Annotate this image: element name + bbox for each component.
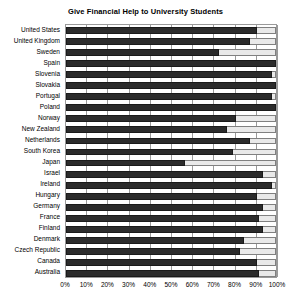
y-axis-label: Japan [0, 158, 62, 166]
y-axis-label: Netherlands [0, 136, 62, 144]
y-axis-label: France [0, 213, 62, 221]
bar-row[interactable] [66, 248, 276, 255]
gridline [277, 25, 278, 277]
bar-fill [66, 60, 276, 67]
x-axis-tick-label: 80% [228, 280, 241, 289]
bar-fill [66, 115, 236, 122]
y-axis-label: Poland [0, 103, 62, 111]
y-axis-label: Slovakia [0, 81, 62, 89]
x-axis-tick-label: 60% [186, 280, 199, 289]
y-axis-label: Australia [0, 268, 62, 276]
bar-row[interactable] [66, 171, 276, 178]
y-axis-label: Portugal [0, 92, 62, 100]
bar-fill [66, 93, 272, 100]
bar-row[interactable] [66, 104, 276, 111]
bar-row[interactable] [66, 160, 276, 167]
x-axis-tick-labels: 0%10%20%30%40%50%60%70%80%90%100% [0, 280, 291, 292]
bar-fill [66, 138, 250, 145]
bar-row[interactable] [66, 27, 276, 34]
y-axis-label: Slovenia [0, 70, 62, 78]
bar-fill [66, 149, 233, 156]
bar-row[interactable] [66, 182, 276, 189]
bar-fill [66, 82, 276, 89]
bar-fill [66, 226, 263, 233]
bar-row[interactable] [66, 193, 276, 200]
bar-fill [66, 49, 219, 56]
bar-row[interactable] [66, 226, 276, 233]
bar-fill [66, 27, 257, 34]
bar-fill [66, 160, 185, 167]
bar-row[interactable] [66, 60, 276, 67]
bar-row[interactable] [66, 82, 276, 89]
bar-fill [66, 259, 257, 266]
plot-area [65, 24, 277, 278]
x-axis-tick-label: 50% [164, 280, 177, 289]
bar-fill [66, 104, 276, 111]
bar-row[interactable] [66, 270, 276, 277]
y-axis-label: Finland [0, 224, 62, 232]
chart-title: Give Financial Help to University Studen… [0, 7, 291, 17]
bar-fill [66, 38, 250, 45]
bar-fill [66, 171, 263, 178]
bar-fill [66, 204, 263, 211]
bar-fill [66, 193, 257, 200]
y-axis-label: Israel [0, 169, 62, 177]
y-axis-label: Ireland [0, 180, 62, 188]
bar-row[interactable] [66, 149, 276, 156]
x-axis-tick-label: 0% [60, 280, 69, 289]
y-axis-label: Germany [0, 202, 62, 210]
y-axis-label: Czech Republic [0, 246, 62, 254]
y-axis-label: United States [0, 26, 62, 34]
bar-row[interactable] [66, 126, 276, 133]
y-axis-label: Spain [0, 59, 62, 67]
bar-row[interactable] [66, 115, 276, 122]
y-axis-label: New Zealand [0, 125, 62, 133]
x-axis-tick-label: 10% [80, 280, 93, 289]
y-axis-label: Sweden [0, 48, 62, 56]
bar-row[interactable] [66, 38, 276, 45]
y-axis-label: Hungary [0, 191, 62, 199]
y-axis-label: Denmark [0, 235, 62, 243]
x-axis-tick-label: 40% [143, 280, 156, 289]
bar-row[interactable] [66, 138, 276, 145]
bar-row[interactable] [66, 49, 276, 56]
bar-fill [66, 237, 244, 244]
bar-fill [66, 182, 272, 189]
bar-row[interactable] [66, 71, 276, 78]
bar-row[interactable] [66, 204, 276, 211]
bar-row[interactable] [66, 215, 276, 222]
bar-fill [66, 248, 240, 255]
y-axis-label: Canada [0, 257, 62, 265]
x-axis-tick-label: 30% [122, 280, 135, 289]
bar-fill [66, 215, 259, 222]
x-axis-tick-label: 100% [269, 280, 286, 289]
y-axis-label: South Korea [0, 147, 62, 155]
bar-row[interactable] [66, 237, 276, 244]
bar-row[interactable] [66, 259, 276, 266]
bar-fill [66, 126, 227, 133]
bar-fill [66, 71, 272, 78]
y-axis-category-labels: United StatesUnited KingdomSwedenSpainSl… [0, 24, 62, 278]
y-axis-label: Norway [0, 114, 62, 122]
y-axis-label: United Kingdom [0, 37, 62, 45]
x-axis-tick-label: 70% [207, 280, 220, 289]
x-axis-tick-label: 90% [249, 280, 262, 289]
bars-layer [66, 25, 276, 277]
bar-fill [66, 270, 259, 277]
x-axis-tick-label: 20% [101, 280, 114, 289]
chart-container: Give Financial Help to University Studen… [0, 0, 291, 303]
bar-row[interactable] [66, 93, 276, 100]
